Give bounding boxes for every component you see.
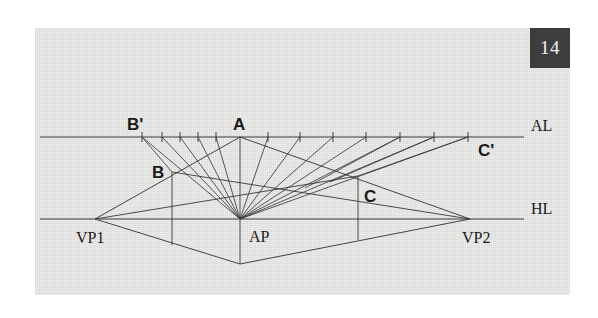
label-al: AL — [531, 118, 552, 134]
figure-number-badge: 14 — [530, 28, 570, 68]
label-b: B — [152, 164, 164, 181]
perspective-diagram-artwork — [0, 0, 598, 318]
label-vp2: VP2 — [462, 230, 490, 246]
label-hl: HL — [531, 201, 552, 217]
label-a: A — [233, 116, 245, 133]
measuring-point-rays — [142, 137, 468, 188]
label-ap: AP — [249, 229, 269, 245]
measuring-line-fan — [142, 137, 468, 219]
label-b-prime: B' — [127, 116, 143, 133]
label-c: C — [364, 188, 376, 205]
label-c-prime: C' — [478, 142, 494, 159]
figure-container: 14 B' A AL C' B C HL VP1 AP VP2 — [0, 0, 598, 318]
label-vp1: VP1 — [76, 230, 104, 246]
